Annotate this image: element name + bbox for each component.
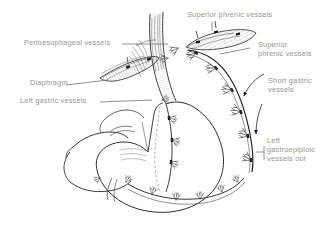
- label-short-gastric-vessels: Short gastric vessels: [268, 76, 312, 94]
- anatomical-figure: Perioesophageal vessels Diaphragm Left g…: [0, 0, 330, 236]
- leader-short-gastric-2: [256, 104, 262, 134]
- label-superior-phrenic-vessels-top: Superior phrenic vessels: [187, 10, 272, 19]
- superior-phrenic-band: [186, 21, 256, 50]
- diaphragm-band: [100, 56, 159, 81]
- label-superior-phrenic-vessels-right: Superior phrenic vessels: [258, 40, 312, 58]
- stomach-body: [64, 102, 224, 212]
- leader-short-gastric: [244, 74, 264, 96]
- label-left-gastric-vessels: Left gastric vessels: [20, 96, 86, 105]
- leader-left-gastric: [100, 100, 152, 102]
- label-diaphragm: Diaphragm: [30, 78, 68, 87]
- leader-diaphragm: [66, 80, 108, 85]
- label-left-gastroepiploic-vessels-out: Left gastroepiploic vessels out: [267, 136, 315, 164]
- illustration-canvas: [0, 0, 330, 236]
- label-perioesophageal-vessels: Perioesophageal vessels: [24, 38, 110, 47]
- leader-superior-phrenic-right: [220, 48, 250, 54]
